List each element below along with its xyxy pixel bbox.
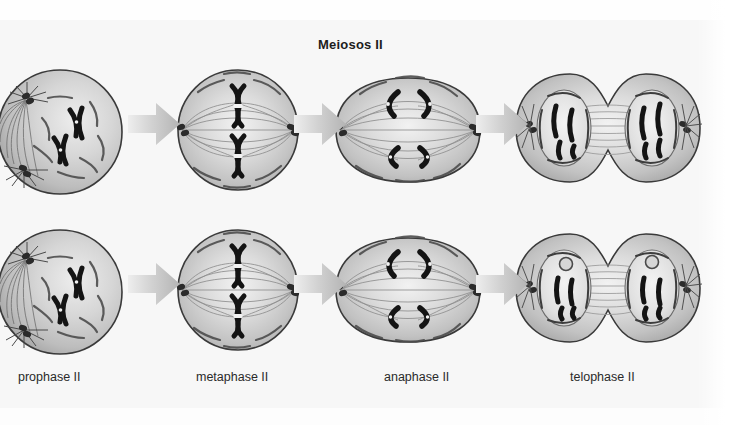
cell-telophase-top xyxy=(508,62,708,202)
stage-row-bottom xyxy=(0,222,737,362)
stage-row-top xyxy=(0,62,737,202)
cell-anaphase-top xyxy=(326,62,490,202)
nucleolus-left xyxy=(560,258,573,271)
progression-arrow-2 xyxy=(292,98,348,150)
cell-telophase-bottom xyxy=(508,222,708,362)
cell-prophase-bottom xyxy=(0,222,134,362)
figure-title: Meiosos II xyxy=(0,37,737,52)
nucleus-left-telophase xyxy=(537,90,591,166)
progression-arrow-4 xyxy=(126,258,182,310)
progression-arrow-5 xyxy=(292,258,348,310)
nucleolus-right xyxy=(646,256,659,269)
scan-edge-top xyxy=(0,0,737,20)
figure-page: Meiosos II xyxy=(0,0,737,425)
stage-label-metaphase: metaphase II xyxy=(196,370,268,384)
stage-label-anaphase: anaphase II xyxy=(384,370,449,384)
cell-metaphase-top xyxy=(168,62,308,202)
progression-arrow-3 xyxy=(474,98,530,150)
progression-arrow-6 xyxy=(474,258,530,310)
scan-edge-bottom xyxy=(0,408,737,425)
cell-prophase-top xyxy=(0,62,134,202)
stage-label-telophase: telophase II xyxy=(570,370,635,384)
progression-arrow-1 xyxy=(126,98,182,150)
nucleus-right-telophase xyxy=(625,90,679,166)
stage-label-prophase: prophase II xyxy=(18,370,81,384)
cell-anaphase-bottom xyxy=(326,222,490,362)
cell-metaphase-bottom xyxy=(168,222,308,362)
figure-title-text: Meiosos II xyxy=(318,37,383,52)
